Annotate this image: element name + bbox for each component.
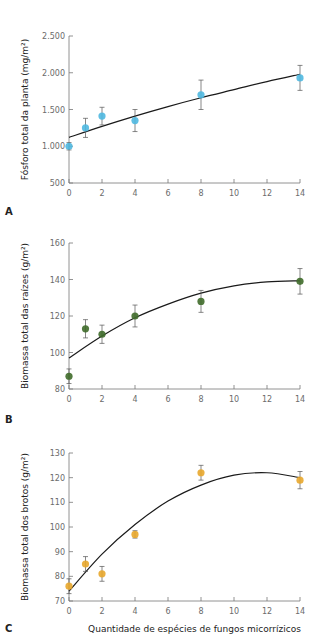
x-tick-label: 2 <box>99 395 104 404</box>
y-tick-label: 120 <box>50 474 65 483</box>
marker <box>296 278 303 285</box>
y-axis-title: Biomassa total dos brotos (g/m²) <box>20 453 30 601</box>
x-tick-label: 0 <box>66 395 71 404</box>
panel-label: B <box>5 414 13 425</box>
data-point <box>131 531 138 538</box>
data-point <box>296 65 303 90</box>
data-point <box>98 325 105 343</box>
y-tick-label: 70 <box>55 597 65 606</box>
marker <box>65 143 72 150</box>
x-tick-label: 10 <box>229 607 239 616</box>
x-tick-label: 10 <box>229 395 239 404</box>
y-tick-label: 2.500 <box>42 32 65 41</box>
marker <box>65 583 72 590</box>
x-tick-label: 0 <box>66 607 71 616</box>
data-point <box>65 369 72 384</box>
x-tick-label: 6 <box>165 607 170 616</box>
panel-label: C <box>5 623 12 634</box>
data-point <box>296 269 303 295</box>
data-point <box>197 465 204 480</box>
y-tick-label: 80 <box>55 572 65 581</box>
x-tick-label: 8 <box>198 607 203 616</box>
marker <box>65 373 72 380</box>
x-tick-label: 14 <box>295 395 305 404</box>
marker <box>82 560 89 567</box>
marker <box>98 331 105 338</box>
marker <box>98 113 105 120</box>
data-point <box>65 579 72 594</box>
chart-panel-b: 8010012014016002468101214Biomassa total … <box>5 239 305 425</box>
panel-label: A <box>5 206 13 217</box>
x-tick-label: 12 <box>262 395 272 404</box>
y-tick-label: 90 <box>55 548 65 557</box>
x-tick-label: 12 <box>262 189 272 198</box>
x-tick-label: 4 <box>132 607 137 616</box>
y-tick-label: 100 <box>50 523 65 532</box>
fit-curve <box>69 281 300 358</box>
marker <box>82 124 89 131</box>
x-tick-label: 4 <box>132 189 137 198</box>
marker <box>98 570 105 577</box>
data-point <box>296 472 303 489</box>
x-tick-label: 14 <box>295 607 305 616</box>
data-point <box>98 107 105 125</box>
figure: 5001.0001.5002.0002.50002468101214Fósfor… <box>0 0 317 636</box>
y-tick-label: 100 <box>50 349 65 358</box>
data-point <box>82 320 89 338</box>
marker <box>131 312 138 319</box>
x-tick-label: 10 <box>229 189 239 198</box>
x-tick-label: 2 <box>99 189 104 198</box>
data-point <box>131 305 138 327</box>
marker <box>197 469 204 476</box>
y-tick-label: 110 <box>50 498 65 507</box>
x-tick-label: 12 <box>262 607 272 616</box>
y-tick-label: 160 <box>50 239 65 248</box>
y-tick-label: 1.500 <box>42 106 65 115</box>
chart-panel-c: 70809010011012013002468101214Biomassa to… <box>5 449 305 634</box>
y-tick-label: 1.000 <box>42 142 65 151</box>
x-tick-label: 6 <box>165 395 170 404</box>
marker <box>296 477 303 484</box>
y-tick-label: 80 <box>55 385 65 394</box>
fit-curve <box>69 74 300 137</box>
x-axis-title: Quantidade de espécies de fungos micorrí… <box>88 624 301 634</box>
x-tick-label: 2 <box>99 607 104 616</box>
x-tick-label: 4 <box>132 395 137 404</box>
y-tick-label: 120 <box>50 312 65 321</box>
y-tick-label: 140 <box>50 276 65 285</box>
y-tick-label: 130 <box>50 449 65 458</box>
y-tick-label: 2.000 <box>42 69 65 78</box>
marker <box>197 91 204 98</box>
x-tick-label: 8 <box>198 189 203 198</box>
data-point <box>82 118 89 137</box>
y-tick-label: 500 <box>50 179 65 188</box>
y-axis-title: Fósforo total da planta (mg/m²) <box>20 39 30 180</box>
marker <box>131 117 138 124</box>
data-point <box>131 110 138 132</box>
x-tick-label: 14 <box>295 189 305 198</box>
chart-panel-a: 5001.0001.5002.0002.50002468101214Fósfor… <box>5 32 305 217</box>
marker <box>131 531 138 538</box>
x-tick-label: 6 <box>165 189 170 198</box>
y-axis-title: Biomassa total das raízes (g/m²) <box>20 243 30 389</box>
marker <box>197 298 204 305</box>
marker <box>82 325 89 332</box>
data-point <box>65 143 72 150</box>
marker <box>296 74 303 81</box>
data-point <box>98 566 105 581</box>
x-tick-label: 8 <box>198 395 203 404</box>
data-point <box>197 80 204 109</box>
x-tick-label: 0 <box>66 189 71 198</box>
